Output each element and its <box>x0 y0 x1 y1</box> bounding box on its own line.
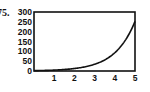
x-tick-label: 4 <box>112 73 117 83</box>
x-tick-label: 3 <box>92 73 97 83</box>
y-tick-label: 300 <box>18 7 32 17</box>
y-tick-label: 0 <box>27 66 32 76</box>
x-tick-label: 1 <box>52 73 57 83</box>
x-tick-label: 5 <box>133 73 138 83</box>
data-curve <box>34 21 135 70</box>
y-tick-label: 200 <box>18 27 32 37</box>
y-tick-label: 100 <box>18 46 32 56</box>
y-tick-label: 250 <box>18 17 32 27</box>
plot-frame <box>34 12 135 71</box>
y-tick-label: 150 <box>18 37 32 47</box>
x-tick-label: 2 <box>72 73 77 83</box>
y-tick-label: 50 <box>23 56 33 66</box>
exponential-line-chart: 05010015020025030012345 <box>0 0 150 92</box>
